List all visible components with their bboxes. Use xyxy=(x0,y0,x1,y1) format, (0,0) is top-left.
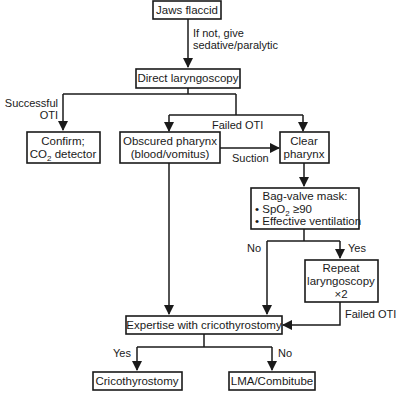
svg-text:Jaws flaccid: Jaws flaccid xyxy=(156,4,218,16)
node-repeat-laryngoscopy: Repeat laryngoscopy ×2 xyxy=(305,260,378,302)
node-cricothyrostomy: Cricothyrostomy xyxy=(93,372,182,390)
label-no-expertise: No xyxy=(278,347,292,359)
airway-flowchart: Jaws flaccid Direct laryngoscopy Confirm… xyxy=(0,0,397,395)
label-if-not: If not, give xyxy=(193,27,244,39)
svg-text:Confirm;: Confirm; xyxy=(41,135,84,147)
node-clear-pharynx: Clear pharynx xyxy=(280,132,329,163)
svg-text:Direct laryngoscopy: Direct laryngoscopy xyxy=(138,72,239,84)
node-confirm: Confirm; CO2 detector xyxy=(27,132,100,163)
node-bag-valve-mask: Bag-valve mask: • SpO2 ≥90 • Effective v… xyxy=(251,188,361,229)
node-lma-combitube: LMA/Combitube xyxy=(229,372,315,390)
label-successful: Successful xyxy=(5,97,58,109)
svg-text:Cricothyrostomy: Cricothyrostomy xyxy=(95,375,178,387)
svg-text:Obscured pharynx: Obscured pharynx xyxy=(123,135,217,147)
svg-text:Clear: Clear xyxy=(290,135,318,147)
svg-text:Repeat: Repeat xyxy=(322,262,360,274)
label-failed-oti-top: Failed OTI xyxy=(212,119,263,131)
arrow-repeat-failed-to-expertise xyxy=(283,302,340,325)
svg-text:×2: ×2 xyxy=(334,288,347,300)
label-failed-oti-repeat: Failed OTI xyxy=(345,308,396,320)
node-direct-laryngoscopy: Direct laryngoscopy xyxy=(136,69,240,88)
label-suction: Suction xyxy=(232,152,269,164)
svg-text:(blood/vomitus): (blood/vomitus) xyxy=(131,148,210,160)
svg-text:LMA/Combitube: LMA/Combitube xyxy=(231,375,313,387)
svg-text:• Effective ventilation: • Effective ventilation xyxy=(255,215,361,227)
svg-text:Bag-valve mask:: Bag-valve mask: xyxy=(262,190,347,202)
svg-text:pharynx: pharynx xyxy=(284,148,325,160)
svg-text:laryngoscopy: laryngoscopy xyxy=(307,275,375,287)
label-sedative: sedative/paralytic xyxy=(193,39,278,51)
label-no-bvm: No xyxy=(247,242,261,254)
svg-text:Expertise with cricothyrostomy: Expertise with cricothyrostomy xyxy=(126,319,282,331)
node-obscured-pharynx: Obscured pharynx (blood/vomitus) xyxy=(120,132,220,163)
label-yes-expertise: Yes xyxy=(113,347,131,359)
node-expertise: Expertise with cricothyrostomy xyxy=(126,316,282,334)
label-oti: OTI xyxy=(40,109,58,121)
label-yes-bvm: Yes xyxy=(348,242,366,254)
node-jaws-flaccid: Jaws flaccid xyxy=(153,1,221,19)
